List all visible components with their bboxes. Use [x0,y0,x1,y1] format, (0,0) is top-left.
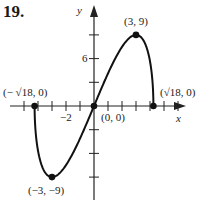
data-point [49,174,56,181]
data-point [91,103,98,110]
y-axis-arrow-icon [90,5,98,17]
point-label-sqrt18: (√18, 0) [160,86,196,99]
figure: 19. y x −2 6 (− √18, 0) (−3, −9) (0, 0) … [0,0,203,202]
data-point [150,103,157,110]
x-tick-label-minus2: −2 [60,111,72,123]
y-tick-label-6: 6 [82,52,88,64]
x-axis-arrow-icon [174,102,186,110]
point-label-min: (−3, −9) [28,184,65,197]
data-point [31,103,38,110]
point-label-origin: (0, 0) [101,111,125,124]
y-axis [89,5,99,200]
chart: y x −2 6 (− √18, 0) (−3, −9) (0, 0) (3, … [0,0,203,202]
point-label-neg-sqrt18: (− √18, 0) [3,86,48,99]
point-label-max: (3, 9) [124,15,148,28]
y-axis-label: y [76,4,82,16]
x-axis-label: x [175,112,181,124]
data-point [133,32,140,39]
